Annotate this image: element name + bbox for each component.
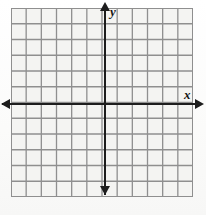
y-axis-line (104, 5, 106, 195)
arrow-down-icon (100, 186, 110, 195)
coordinate-grid-figure: y x (0, 0, 206, 215)
arrow-left-icon (1, 99, 10, 109)
x-axis-line (2, 103, 200, 105)
x-axis-label: x (184, 88, 191, 101)
y-axis-label: y (110, 5, 116, 18)
arrow-right-icon (195, 99, 204, 109)
arrow-up-icon (100, 2, 110, 11)
